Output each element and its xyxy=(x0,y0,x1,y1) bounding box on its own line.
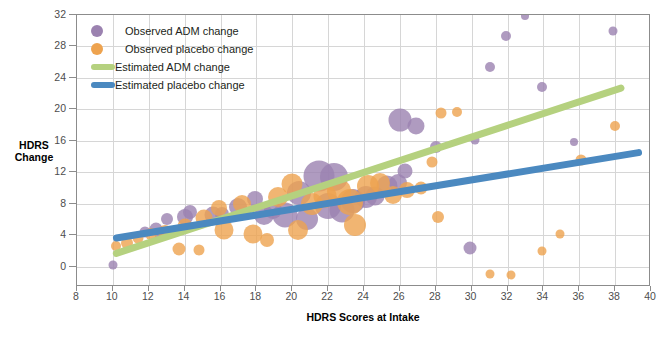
x-tick-label: 20 xyxy=(276,291,306,302)
y-tick-mark xyxy=(69,14,76,15)
legend-label: Estimated ADM change xyxy=(115,61,230,73)
x-tick-label: 22 xyxy=(312,291,342,302)
legend-label: Observed placebo change xyxy=(125,43,253,55)
y-tick-mark xyxy=(69,77,76,78)
y-tick-label: 4 xyxy=(40,229,66,239)
y-tick-label: 28 xyxy=(40,40,66,50)
x-tick-mark xyxy=(399,286,400,291)
legend-line-icon xyxy=(91,64,115,70)
y-tick-label: 32 xyxy=(40,9,66,19)
x-tick-label: 40 xyxy=(635,291,665,302)
legend-marker-icon xyxy=(91,43,103,55)
x-tick-mark xyxy=(363,286,364,291)
x-axis-title: HDRS Scores at Intake xyxy=(76,311,650,323)
x-tick-mark xyxy=(327,286,328,291)
x-tick-mark xyxy=(614,286,615,291)
y-tick-mark xyxy=(69,108,76,109)
x-tick-label: 26 xyxy=(384,291,414,302)
x-tick-mark xyxy=(542,286,543,291)
x-tick-label: 24 xyxy=(348,291,378,302)
chart-legend: Observed ADM changeObserved placebo chan… xyxy=(91,22,291,94)
legend-item: Observed ADM change xyxy=(91,22,291,40)
x-tick-label: 28 xyxy=(420,291,450,302)
fit-line xyxy=(112,84,625,258)
x-tick-mark xyxy=(578,286,579,291)
x-tick-mark xyxy=(76,286,77,291)
x-tick-label: 14 xyxy=(169,291,199,302)
x-tick-mark xyxy=(291,286,292,291)
x-tick-label: 38 xyxy=(599,291,629,302)
x-tick-label: 36 xyxy=(563,291,593,302)
x-tick-label: 30 xyxy=(456,291,486,302)
x-tick-mark xyxy=(184,286,185,291)
y-axis-title-line2: Change xyxy=(15,151,54,163)
x-tick-label: 32 xyxy=(492,291,522,302)
y-tick-label: 8 xyxy=(40,198,66,208)
scatter-chart: HDRS Change 048121620242832 810121416182… xyxy=(0,0,666,339)
legend-line-icon xyxy=(91,82,115,88)
x-tick-label: 18 xyxy=(240,291,270,302)
x-tick-label: 12 xyxy=(133,291,163,302)
legend-item: Observed placebo change xyxy=(91,40,291,58)
y-tick-label: 0 xyxy=(40,261,66,271)
x-tick-mark xyxy=(507,286,508,291)
x-tick-label: 8 xyxy=(61,291,91,302)
y-tick-mark xyxy=(69,45,76,46)
x-tick-label: 10 xyxy=(97,291,127,302)
x-tick-mark xyxy=(148,286,149,291)
x-tick-mark xyxy=(471,286,472,291)
y-tick-label: 12 xyxy=(40,166,66,176)
legend-label: Estimated placebo change xyxy=(115,79,245,91)
y-tick-mark xyxy=(69,266,76,267)
legend-marker-icon xyxy=(91,25,103,37)
y-tick-mark xyxy=(69,203,76,204)
legend-label: Observed ADM change xyxy=(125,25,239,37)
y-tick-mark xyxy=(69,140,76,141)
x-tick-label: 34 xyxy=(527,291,557,302)
x-tick-mark xyxy=(220,286,221,291)
legend-item: Estimated ADM change xyxy=(91,58,291,76)
x-tick-mark xyxy=(435,286,436,291)
y-tick-label: 16 xyxy=(40,135,66,145)
legend-item: Estimated placebo change xyxy=(91,76,291,94)
y-tick-label: 24 xyxy=(40,72,66,82)
y-tick-label: 20 xyxy=(40,103,66,113)
y-tick-mark xyxy=(69,171,76,172)
y-tick-mark xyxy=(69,234,76,235)
x-tick-label: 16 xyxy=(205,291,235,302)
fit-line xyxy=(112,148,642,241)
x-tick-mark xyxy=(650,286,651,291)
x-tick-mark xyxy=(112,286,113,291)
x-tick-mark xyxy=(255,286,256,291)
